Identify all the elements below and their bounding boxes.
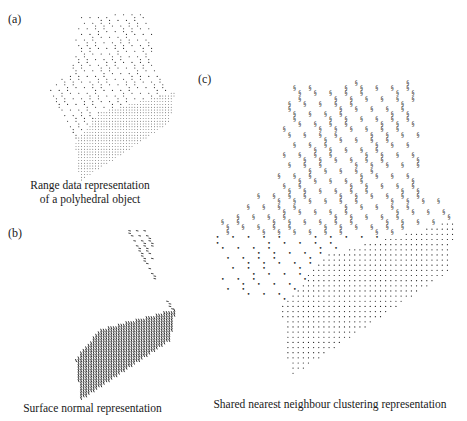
svg-text:§: §: [406, 115, 409, 122]
svg-text:•: •: [242, 285, 246, 292]
svg-text:•: •: [247, 290, 251, 297]
figure-plots: §§§§§§§§§§§§§§§§§§§§§§§§§§§§§§§§§§§§§§§§…: [0, 0, 467, 421]
svg-text:§: §: [303, 218, 306, 225]
svg-text:§: §: [344, 120, 347, 127]
svg-text:§: §: [324, 228, 327, 235]
svg-text:§: §: [319, 218, 322, 225]
svg-text:§: §: [442, 208, 445, 215]
svg-text:§: §: [406, 203, 409, 210]
svg-text:§: §: [396, 95, 399, 102]
svg-text:§: §: [308, 172, 311, 179]
svg-text:•: •: [278, 290, 282, 297]
svg-text:§: §: [386, 136, 389, 143]
svg-text:§: §: [365, 125, 368, 132]
svg-text:•: •: [231, 233, 235, 240]
svg-text:§: §: [370, 167, 373, 174]
svg-text:§: §: [293, 228, 296, 235]
svg-text:•: •: [267, 270, 271, 277]
svg-text:•: •: [298, 239, 302, 246]
svg-text:§: §: [314, 120, 317, 127]
svg-text:•: •: [262, 233, 266, 240]
svg-text:§: §: [334, 218, 337, 225]
svg-text:§: §: [293, 141, 296, 148]
svg-text:§: §: [272, 192, 275, 199]
svg-text:§: §: [417, 161, 420, 168]
svg-text:§: §: [298, 208, 301, 215]
svg-text:§: §: [288, 105, 291, 112]
svg-text:§: §: [411, 95, 414, 102]
svg-text:§: §: [308, 84, 311, 91]
svg-text:§: §: [437, 197, 440, 204]
svg-text:§: §: [298, 95, 301, 102]
svg-text:§: §: [391, 172, 394, 179]
svg-text:•: •: [236, 275, 240, 282]
svg-text:§: §: [283, 151, 286, 158]
svg-text:§: §: [411, 208, 414, 215]
svg-text:•: •: [221, 244, 225, 251]
svg-text:§: §: [350, 100, 353, 107]
svg-text:§: §: [314, 208, 317, 215]
svg-text:§: §: [391, 228, 394, 235]
svg-text:§: §: [288, 223, 291, 230]
svg-text:•: •: [293, 285, 297, 292]
svg-text:§: §: [303, 161, 306, 168]
svg-text:•: •: [221, 275, 225, 282]
svg-text:§: §: [360, 177, 363, 184]
svg-text:•: •: [236, 244, 240, 251]
svg-text:§: §: [324, 197, 327, 204]
svg-text:§: §: [355, 223, 358, 230]
svg-text:§: §: [355, 79, 358, 86]
svg-text:§: §: [391, 84, 394, 91]
svg-text:§: §: [247, 203, 250, 210]
svg-text:§: §: [344, 177, 347, 184]
svg-text:§: §: [422, 197, 425, 204]
svg-text:§: §: [334, 156, 337, 163]
svg-text:§: §: [365, 187, 368, 194]
svg-text:§: §: [447, 213, 450, 220]
svg-text:§: §: [355, 136, 358, 143]
svg-text:§: §: [381, 156, 384, 163]
svg-text:§: §: [365, 95, 368, 102]
svg-text:§: §: [401, 223, 404, 230]
svg-text:§: §: [319, 131, 322, 138]
svg-text:§: §: [252, 213, 255, 220]
svg-text:§: §: [339, 228, 342, 235]
svg-text:§: §: [339, 136, 342, 143]
svg-text:§: §: [391, 141, 394, 148]
svg-text:§: §: [391, 115, 394, 122]
svg-text:§: §: [314, 177, 317, 184]
svg-text:•: •: [314, 239, 318, 246]
svg-text:•: •: [283, 239, 287, 246]
svg-text:§: §: [401, 105, 404, 112]
svg-text:§: §: [324, 110, 327, 117]
svg-text:§: §: [288, 161, 291, 168]
svg-text:§: §: [339, 167, 342, 174]
svg-text:§: §: [381, 95, 384, 102]
svg-text:•: •: [247, 233, 251, 240]
svg-text:§: §: [329, 177, 332, 184]
svg-text:§: §: [314, 89, 317, 96]
svg-text:§: §: [370, 223, 373, 230]
svg-text:§: §: [375, 115, 378, 122]
svg-text:§: §: [221, 218, 224, 225]
svg-text:§: §: [334, 131, 337, 138]
svg-text:§: §: [406, 84, 409, 91]
svg-text:•: •: [344, 233, 348, 240]
svg-text:•: •: [242, 254, 246, 261]
svg-text:§: §: [303, 100, 306, 107]
svg-text:§: §: [329, 151, 332, 158]
svg-text:§: §: [293, 84, 296, 91]
svg-text:§: §: [417, 192, 420, 199]
svg-text:§: §: [386, 223, 389, 230]
svg-text:§: §: [375, 146, 378, 153]
point-cloud: §§§§§§§§§§§§§§§§§§§§§§§§§§§§§§§§§§§§§§§§…: [216, 79, 453, 374]
svg-text:§: §: [386, 161, 389, 168]
svg-text:§: §: [308, 197, 311, 204]
svg-text:•: •: [278, 233, 282, 240]
svg-text:§: §: [360, 115, 363, 122]
svg-text:•: •: [360, 233, 364, 240]
svg-text:§: §: [360, 89, 363, 96]
svg-text:§: §: [293, 172, 296, 179]
svg-text:§: §: [257, 192, 260, 199]
svg-text:§: §: [267, 213, 270, 220]
